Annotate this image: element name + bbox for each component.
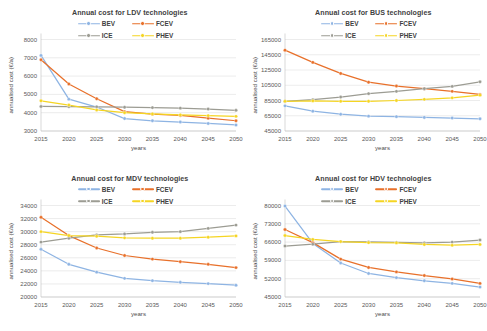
data-point-phev xyxy=(151,236,154,239)
y-tick-label: 34000 xyxy=(20,202,37,208)
y-tick-label: 105000 xyxy=(260,82,281,88)
y-tick-label: 24000 xyxy=(20,267,37,273)
data-point-fcev xyxy=(394,84,397,87)
data-point-fcev xyxy=(339,257,342,260)
data-point-bev xyxy=(283,204,286,207)
x-tick-label: 2025 xyxy=(334,302,348,308)
x-tick-label: 2050 xyxy=(473,136,487,142)
data-point-ice xyxy=(179,229,182,232)
y-tick-label: 45000 xyxy=(264,128,281,134)
data-point-bev xyxy=(39,247,42,250)
data-point-ice xyxy=(39,105,42,108)
data-point-fcev xyxy=(95,246,98,249)
data-point-bev xyxy=(450,281,453,284)
data-point-fcev xyxy=(234,119,237,122)
chart-panel-ldv: Annual cost for LDV technologies BEV FCE… xyxy=(0,0,244,166)
data-point-bev xyxy=(339,113,342,116)
x-tick-label: 2045 xyxy=(445,136,459,142)
y-axis-title: annualised cost (€/a) xyxy=(251,57,258,114)
y-tick-label: 20000 xyxy=(20,294,37,300)
data-point-bev xyxy=(206,122,209,125)
x-tick-label: 2045 xyxy=(201,302,215,308)
y-tick-label: 3000 xyxy=(24,128,38,134)
data-point-phev xyxy=(311,99,314,102)
data-point-phev xyxy=(283,100,286,103)
data-point-ice xyxy=(151,230,154,233)
data-point-phev xyxy=(394,99,397,102)
data-point-ice xyxy=(123,106,126,109)
x-tick-label: 2035 xyxy=(146,302,160,308)
data-point-fcev xyxy=(366,265,369,268)
y-tick-label: 30000 xyxy=(20,228,37,234)
x-tick-label: 2040 xyxy=(417,136,431,142)
x-tick-label: 2030 xyxy=(361,136,375,142)
data-point-phev xyxy=(422,98,425,101)
data-point-phev xyxy=(123,111,126,114)
data-point-ice xyxy=(450,85,453,88)
y-tick-label: 8000 xyxy=(24,37,38,43)
x-tick-label: 2025 xyxy=(334,136,348,142)
data-point-ice xyxy=(206,226,209,229)
y-tick-label: 26000 xyxy=(20,254,37,260)
data-point-phev xyxy=(394,241,397,244)
y-tick-label: 28000 xyxy=(20,241,37,247)
y-tick-label: 145000 xyxy=(260,52,281,58)
y-tick-label: 85000 xyxy=(264,98,281,104)
data-point-ice xyxy=(234,223,237,226)
x-tick-label: 2015 xyxy=(278,136,292,142)
data-point-phev xyxy=(366,240,369,243)
y-axis-title: annualised cost (€/a) xyxy=(251,222,258,279)
data-point-fcev xyxy=(151,257,154,260)
y-tick-label: 45000 xyxy=(264,294,281,300)
data-point-phev xyxy=(123,236,126,239)
x-axis-title: years xyxy=(131,310,146,317)
data-point-phev xyxy=(179,236,182,239)
data-point-fcev xyxy=(95,97,98,100)
chart-panel-hdv: Annual cost for HDV technologies BEV FCE… xyxy=(244,166,487,331)
data-point-bev xyxy=(283,104,286,107)
data-point-ice xyxy=(95,105,98,108)
data-point-fcev xyxy=(478,281,481,284)
data-point-fcev xyxy=(234,265,237,268)
x-tick-label: 2050 xyxy=(229,136,243,142)
data-point-bev xyxy=(394,275,397,278)
y-tick-label: 5000 xyxy=(24,91,38,97)
data-point-bev xyxy=(422,279,425,282)
data-point-bev xyxy=(67,97,70,100)
data-point-ice xyxy=(206,107,209,110)
data-point-bev xyxy=(39,54,42,57)
y-tick-label: 32000 xyxy=(20,215,37,221)
y-tick-label: 66000 xyxy=(264,239,281,245)
data-point-fcev xyxy=(366,81,369,84)
data-point-phev xyxy=(206,235,209,238)
x-tick-label: 2025 xyxy=(90,302,104,308)
data-point-ice xyxy=(39,240,42,243)
data-point-ice xyxy=(450,240,453,243)
x-tick-label: 2030 xyxy=(118,302,132,308)
plot-area-bus: 4500065000850001050001250001450001650002… xyxy=(244,0,487,166)
x-tick-label: 2035 xyxy=(389,302,403,308)
y-axis-title: annualised cost (€/a) xyxy=(7,57,14,114)
data-point-ice xyxy=(422,87,425,90)
data-point-phev xyxy=(95,234,98,237)
data-point-bev xyxy=(179,280,182,283)
x-tick-label: 2045 xyxy=(201,136,215,142)
y-tick-label: 80000 xyxy=(264,202,281,208)
x-tick-label: 2020 xyxy=(62,136,76,142)
y-tick-label: 165000 xyxy=(260,37,281,43)
data-point-bev xyxy=(123,117,126,120)
data-point-phev xyxy=(450,96,453,99)
y-tick-label: 65000 xyxy=(264,113,281,119)
data-point-phev xyxy=(234,115,237,118)
data-point-bev xyxy=(179,120,182,123)
y-tick-label: 73000 xyxy=(264,220,281,226)
data-point-bev xyxy=(478,285,481,288)
x-tick-label: 2015 xyxy=(34,302,48,308)
data-point-phev xyxy=(39,229,42,232)
data-point-fcev xyxy=(450,90,453,93)
y-tick-label: 125000 xyxy=(260,67,281,73)
plot-area-ldv: 3000400050006000700080002015202020252030… xyxy=(0,0,244,166)
data-point-fcev xyxy=(283,227,286,230)
data-point-bev xyxy=(478,117,481,120)
plot-area-hdv: 4500052000590006600073000800002015202020… xyxy=(244,166,487,331)
